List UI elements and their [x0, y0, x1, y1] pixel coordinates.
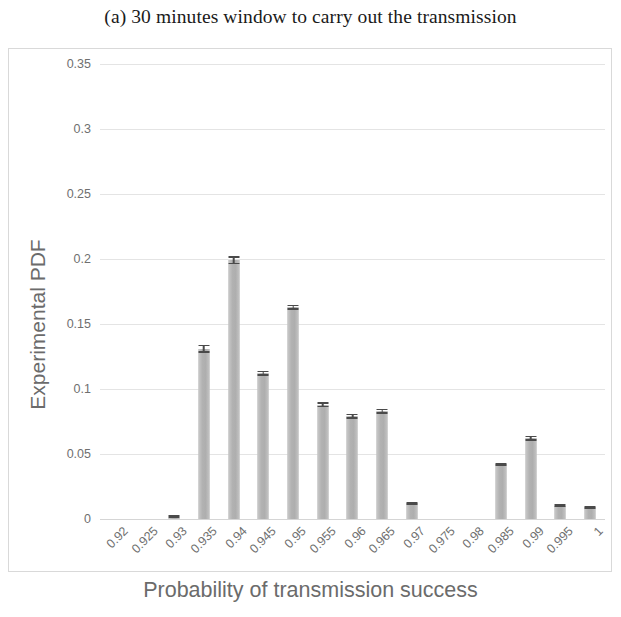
bar-series: [100, 64, 605, 519]
bar-slot: [189, 64, 219, 519]
bar-slot: [456, 64, 486, 519]
x-tick-label: 0.94: [222, 524, 249, 551]
bar-slot: [338, 64, 368, 519]
figure-caption: (a) 30 minutes window to carry out the t…: [0, 6, 621, 28]
bar-slot: [159, 64, 189, 519]
x-tick-label: 0.945: [247, 524, 279, 556]
x-tick-label: 0.98: [460, 524, 487, 551]
x-tick-label: 0.975: [425, 524, 457, 556]
x-tick-label: 0.99: [520, 524, 547, 551]
error-bar-cap-top: [258, 371, 269, 373]
bar-slot: [575, 64, 605, 519]
bar: [555, 506, 566, 519]
error-bar-cap-bottom: [406, 503, 417, 505]
x-tick-label: 0.96: [341, 524, 368, 551]
bar-slot: [486, 64, 516, 519]
error-bar-cap-bottom: [228, 263, 239, 265]
x-tick-label: 0.985: [485, 524, 517, 556]
error-bar-cap-bottom: [317, 406, 328, 408]
plot-area: 00.050.10.150.20.250.30.35 0.920.9250.93…: [100, 64, 605, 519]
y-tick-label: 0.05: [67, 447, 91, 461]
bar-slot: [546, 64, 576, 519]
error-bar-cap-bottom: [585, 507, 596, 509]
bar-slot: [100, 64, 130, 519]
error-bar: [317, 402, 328, 407]
error-bar: [228, 256, 239, 264]
bar: [228, 260, 239, 519]
y-axis-title: Experimental PDF: [23, 97, 53, 552]
error-bar: [288, 305, 299, 310]
error-bar-cap-top: [198, 345, 209, 347]
error-bar: [258, 371, 269, 376]
error-bar: [347, 414, 358, 419]
error-bar-cap-bottom: [288, 308, 299, 310]
error-bar-cap-bottom: [198, 351, 209, 353]
error-bar: [377, 409, 388, 414]
bar: [525, 438, 536, 519]
bar-slot: [219, 64, 249, 519]
bar: [377, 411, 388, 519]
x-tick-label: 0.95: [282, 524, 309, 551]
error-bar-cap-top: [347, 414, 358, 416]
y-tick-label: 0.3: [74, 122, 91, 136]
x-tick-label: 0.93: [163, 524, 190, 551]
bar-slot: [308, 64, 338, 519]
x-tick-label: 0.925: [128, 524, 160, 556]
error-bar-cap-top: [288, 305, 299, 307]
y-tick-label: 0.2: [74, 252, 91, 266]
bar-slot: [367, 64, 397, 519]
y-tick-label: 0.25: [67, 187, 91, 201]
bar-slot: [427, 64, 457, 519]
x-tick-label: 0.955: [307, 524, 339, 556]
x-tick-label: 1: [591, 524, 606, 539]
error-bar: [406, 502, 417, 505]
x-tick-label: 0.995: [544, 524, 576, 556]
chart-plot-frame: Experimental PDF 00.050.10.150.20.250.30…: [8, 48, 612, 572]
error-bar-cap-top: [317, 402, 328, 404]
bar-slot: [397, 64, 427, 519]
x-tick-label: 0.965: [366, 524, 398, 556]
error-bar: [525, 436, 536, 441]
error-bar: [555, 504, 566, 507]
x-tick-label: 0.935: [188, 524, 220, 556]
error-bar-cap-bottom: [347, 417, 358, 419]
error-bar-cap-bottom: [496, 464, 507, 466]
y-tick-label: 0.15: [67, 317, 91, 331]
error-bar-cap-top: [525, 436, 536, 438]
error-bar: [585, 506, 596, 509]
bar: [406, 503, 417, 519]
error-bar-cap-top: [377, 409, 388, 411]
x-axis-tick-labels: 0.920.9250.930.9350.940.9450.950.9550.96…: [100, 519, 605, 569]
error-bar-cap-bottom: [555, 506, 566, 508]
bar-slot: [516, 64, 546, 519]
y-tick-label: 0: [84, 512, 91, 526]
bar: [198, 349, 209, 519]
bar: [317, 405, 328, 519]
bar: [258, 373, 269, 519]
error-bar: [169, 515, 180, 518]
error-bar: [496, 463, 507, 466]
bar: [288, 307, 299, 519]
x-tick-label: 0.97: [401, 524, 428, 551]
error-bar: [198, 345, 209, 353]
y-tick-label: 0.35: [67, 57, 91, 71]
x-tick-label: 0.92: [104, 524, 131, 551]
bar-slot: [278, 64, 308, 519]
error-bar-cap-bottom: [525, 439, 536, 441]
error-bar-cap-bottom: [258, 374, 269, 376]
error-bar-cap-top: [228, 256, 239, 258]
bar: [496, 464, 507, 519]
y-tick-label: 0.1: [74, 382, 91, 396]
bar: [585, 507, 596, 519]
x-axis-title: Probability of transmission success: [0, 578, 621, 603]
bar-slot: [249, 64, 279, 519]
error-bar-cap-bottom: [377, 412, 388, 414]
bar-slot: [130, 64, 160, 519]
bar: [347, 416, 358, 519]
